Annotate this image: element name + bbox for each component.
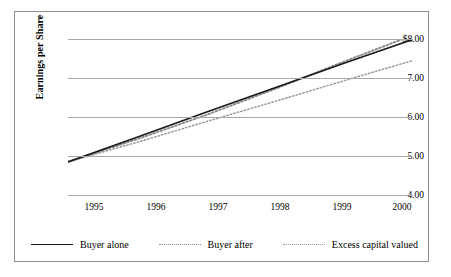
gridline-8 <box>68 39 413 40</box>
legend-entry-buyer-alone: Buyer alone <box>31 239 129 250</box>
x-tick-label-1998: 1998 <box>256 202 304 212</box>
legend-swatch-solid-icon <box>31 239 73 249</box>
y-axis-title: Earnings per Share <box>34 0 48 117</box>
legend-swatch-dotted-thin-icon <box>283 239 325 249</box>
x-tick-label-1996: 1996 <box>132 202 180 212</box>
series-line-buyer-alone <box>68 39 413 161</box>
x-tick-label-1999: 1999 <box>318 202 366 212</box>
legend-label-buyer-alone: Buyer alone <box>80 239 129 250</box>
x-tick-label-2000: 2000 <box>378 202 426 212</box>
gridline-5 <box>68 156 413 157</box>
legend-entry-buyer-after: Buyer after <box>159 239 253 250</box>
gridline-6 <box>68 117 413 118</box>
legend-swatch-dotted-thick-icon <box>159 239 201 249</box>
gridline-7 <box>68 78 413 79</box>
series-line-excess-capital-valued <box>68 60 413 161</box>
chart-legend: Buyer alone Buyer after Excess capital v… <box>31 235 413 253</box>
legend-entry-excess-capital-valued: Excess capital valued <box>283 239 418 250</box>
plot-area <box>68 39 413 195</box>
legend-label-excess-capital-valued: Excess capital valued <box>332 239 418 250</box>
chart-container: Earnings per Share $8.00 7.00 6.00 5.00 … <box>14 11 429 262</box>
x-tick-label-1997: 1997 <box>194 202 242 212</box>
x-tick-label-1995: 1995 <box>70 202 118 212</box>
gridline-4 <box>68 195 413 196</box>
legend-label-buyer-after: Buyer after <box>208 239 253 250</box>
